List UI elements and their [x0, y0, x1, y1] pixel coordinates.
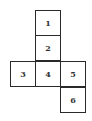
face-1: 1: [35, 10, 61, 36]
face-2: 2: [35, 35, 61, 61]
face-label: 3: [20, 69, 26, 79]
face-label: 5: [70, 69, 76, 79]
face-4: 4: [35, 61, 61, 87]
face-6: 6: [60, 87, 86, 113]
face-5: 5: [60, 61, 86, 87]
face-3: 3: [10, 61, 36, 87]
face-label: 1: [45, 18, 51, 28]
face-label: 4: [45, 69, 51, 79]
face-label: 2: [45, 43, 51, 53]
face-label: 6: [70, 95, 76, 105]
cube-net-diagram: 1 2 3 4 5 6: [0, 0, 92, 121]
